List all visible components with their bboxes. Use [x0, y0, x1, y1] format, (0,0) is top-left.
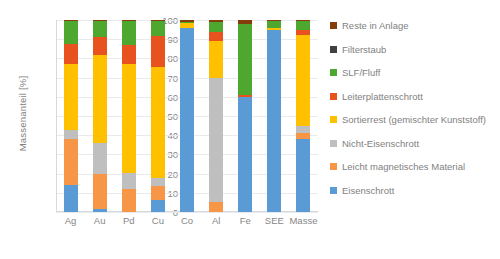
bar-segment[interactable] [180, 28, 194, 212]
bar-stack-au[interactable] [93, 20, 107, 212]
stacked-bar-chart: Massenanteil [%] 0102030405060708090100 … [0, 0, 500, 259]
bar-segment[interactable] [151, 20, 165, 21]
bar-segment[interactable] [93, 209, 107, 212]
bar-segment[interactable] [64, 21, 78, 44]
legend-item[interactable]: Leicht magnetisches Material [330, 155, 498, 179]
legend-label: Nicht-Eisenschrott [342, 139, 419, 149]
bar-segment[interactable] [238, 95, 252, 97]
bar-segment[interactable] [209, 78, 223, 203]
bar-segment[interactable] [238, 97, 252, 212]
bar-segment[interactable] [296, 35, 310, 125]
bar-segment[interactable] [64, 130, 78, 139]
bar-segment[interactable] [151, 21, 165, 36]
bar-segment[interactable] [267, 28, 281, 30]
bar-segment[interactable] [64, 64, 78, 130]
bar-segment[interactable] [296, 139, 310, 212]
bar-segment[interactable] [122, 189, 136, 212]
bar-segment[interactable] [64, 20, 78, 21]
bar-stack-al[interactable] [209, 20, 223, 212]
bar-segment[interactable] [151, 36, 165, 67]
bar-segment[interactable] [209, 202, 223, 212]
bar-segment[interactable] [238, 20, 252, 24]
bar-segment[interactable] [296, 126, 310, 134]
bar-stack-masse[interactable] [296, 20, 310, 212]
bar-segment[interactable] [122, 173, 136, 189]
bar-segment[interactable] [151, 186, 165, 199]
legend-item[interactable]: Filterstaub [330, 38, 498, 62]
legend-swatch-icon [330, 46, 337, 53]
bar-segment[interactable] [93, 174, 107, 210]
bar-segment[interactable] [151, 178, 165, 186]
bar-segment[interactable] [93, 143, 107, 174]
x-axis-tick-label: Masse [283, 215, 323, 226]
bar-segment[interactable] [151, 67, 165, 178]
bar-segment[interactable] [209, 20, 223, 22]
bar-segment[interactable] [180, 22, 194, 23]
bar-stack-cu[interactable] [151, 20, 165, 212]
legend-label: Eisenschrott [342, 186, 394, 196]
bar-segment[interactable] [93, 21, 107, 37]
bar-stack-co[interactable] [180, 20, 194, 212]
legend-item[interactable]: Sortierrest (gemischter Kunststoff) [330, 108, 498, 132]
bar-segment[interactable] [180, 23, 194, 28]
legend-item[interactable]: Reste in Anlage [330, 14, 498, 38]
bar-segment[interactable] [93, 20, 107, 21]
bar-segment[interactable] [209, 22, 223, 32]
legend-label: SLF/Fluff [342, 68, 380, 78]
legend-swatch-icon [330, 22, 337, 29]
bar-segment[interactable] [180, 20, 194, 22]
bar-segment[interactable] [296, 133, 310, 139]
legend-label: Leicht magnetisches Material [342, 162, 465, 172]
legend-item[interactable]: Eisenschrott [330, 179, 498, 203]
bar-segment[interactable] [122, 21, 136, 45]
bar-series-container [56, 20, 318, 212]
legend-label: Leiterplattenschrott [342, 92, 423, 102]
bar-segment[interactable] [296, 20, 310, 21]
legend-label: Reste in Anlage [342, 21, 409, 31]
bar-segment[interactable] [296, 21, 310, 30]
gridline [56, 212, 318, 213]
legend-swatch-icon [330, 93, 337, 100]
y-axis-title: Massenanteil [%] [17, 54, 28, 174]
plot-area [56, 20, 318, 212]
bar-segment[interactable] [64, 139, 78, 185]
legend-swatch-icon [330, 163, 337, 170]
bar-segment[interactable] [151, 200, 165, 212]
bar-segment[interactable] [267, 30, 281, 212]
legend-item[interactable]: SLF/Fluff [330, 61, 498, 85]
bar-segment[interactable] [267, 21, 281, 28]
bar-segment[interactable] [64, 44, 78, 64]
bar-stack-pd[interactable] [122, 20, 136, 212]
bar-stack-fe[interactable] [238, 20, 252, 212]
legend-label: Sortierrest (gemischter Kunststoff) [342, 115, 486, 125]
bar-stack-ag[interactable] [64, 20, 78, 212]
bar-segment[interactable] [122, 20, 136, 21]
bar-segment[interactable] [93, 37, 107, 54]
bar-segment[interactable] [122, 45, 136, 64]
bar-segment[interactable] [238, 24, 252, 95]
legend-swatch-icon [330, 187, 337, 194]
bar-segment[interactable] [122, 64, 136, 172]
bar-segment[interactable] [209, 41, 223, 77]
bar-segment[interactable] [93, 55, 107, 143]
legend-label: Filterstaub [342, 45, 386, 55]
bar-segment[interactable] [209, 32, 223, 42]
bar-segment[interactable] [64, 185, 78, 212]
legend-item[interactable]: Leiterplattenschrott [330, 85, 498, 109]
legend-swatch-icon [330, 69, 337, 76]
legend-swatch-icon [330, 140, 337, 147]
bar-stack-see[interactable] [267, 20, 281, 212]
chart-legend: Reste in AnlageFilterstaubSLF/FluffLeite… [330, 14, 498, 202]
bar-segment[interactable] [296, 30, 310, 36]
legend-item[interactable]: Nicht-Eisenschrott [330, 132, 498, 156]
bar-segment[interactable] [267, 20, 281, 21]
legend-swatch-icon [330, 116, 337, 123]
